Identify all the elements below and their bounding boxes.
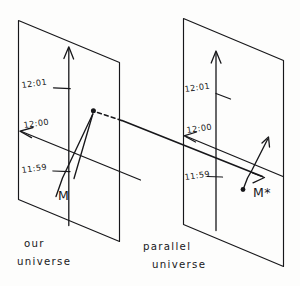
parallel-universe-time-axis	[211, 51, 221, 231]
panel-our-universe: 12:01 12:00 11:59 M	[17, 21, 141, 268]
panel-parallel-universe: 12:01 12:00 11:59 M* parallel	[143, 19, 284, 271]
our-universe-tick-1159-mark	[53, 171, 70, 172]
parallel-universe-tick-1159-label: 11:59	[184, 169, 211, 182]
our-universe-caption-line1: our	[24, 238, 45, 249]
our-universe-worldline-M: M	[56, 108, 96, 203]
our-universe-tick-1201: 12:01	[21, 77, 70, 90]
parallel-universe-tick-1159: 11:59	[184, 169, 223, 182]
dashed-connector	[98, 113, 122, 121]
parallel-universe-caption-line2: universe	[152, 259, 206, 270]
our-universe-tick-1159-label: 11:59	[21, 162, 48, 175]
our-universe-tick-1201-label: 12:01	[21, 77, 48, 90]
our-universe-event-dot	[91, 108, 96, 113]
our-universe-worldline-M-path	[56, 114, 93, 197]
our-universe-tick-1159: 11:59	[21, 162, 70, 175]
parallel-universe-tick-1201-label: 12:01	[184, 81, 211, 94]
our-universe-caption-line2: universe	[17, 256, 71, 267]
parallel-universe-tick-1200-label: 12:00	[186, 122, 213, 135]
our-universe-tick-1201-mark	[54, 88, 71, 89]
parallel-universe-tick-1201: 12:01	[184, 81, 231, 99]
our-universe-mass-label: M	[58, 188, 69, 203]
spacetime-diagram: 12:01 12:00 11:59 M	[0, 0, 300, 286]
figure-root: 12:01 12:00 11:59 M	[0, 0, 300, 286]
parallel-universe-caption-line1: parallel	[143, 241, 191, 252]
our-universe-tick-1200-label: 12:00	[23, 117, 50, 130]
parallel-universe-tick-1201-mark	[216, 94, 231, 100]
parallel-universe-tick-1200: 12:00	[184, 122, 283, 177]
parallel-universe-mass-label: M*	[253, 185, 271, 200]
parallel-universe-worldline-Mstar: M*	[241, 137, 271, 200]
